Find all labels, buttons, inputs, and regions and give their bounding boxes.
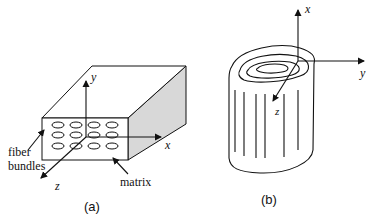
y-axis-label-a: y bbox=[91, 71, 96, 83]
yarn-cylinder bbox=[229, 46, 314, 173]
matrix-label: matrix bbox=[120, 176, 151, 188]
cylinder-outline bbox=[229, 46, 314, 173]
y-axis-label-b: y bbox=[360, 67, 365, 79]
caption-a: (a) bbox=[84, 200, 100, 213]
block-front-face bbox=[42, 118, 128, 160]
x-axis-label-b: x bbox=[305, 3, 310, 15]
fiber-bundles-label-line1: fiber bbox=[8, 146, 31, 158]
x-axis-label-a: x bbox=[165, 139, 170, 151]
z-axis-label-b: z bbox=[275, 106, 279, 117]
z-axis-label-a: z bbox=[55, 180, 60, 192]
caption-b: (b) bbox=[261, 193, 277, 206]
fiber-bundles-label-line2: bundles bbox=[8, 160, 45, 172]
